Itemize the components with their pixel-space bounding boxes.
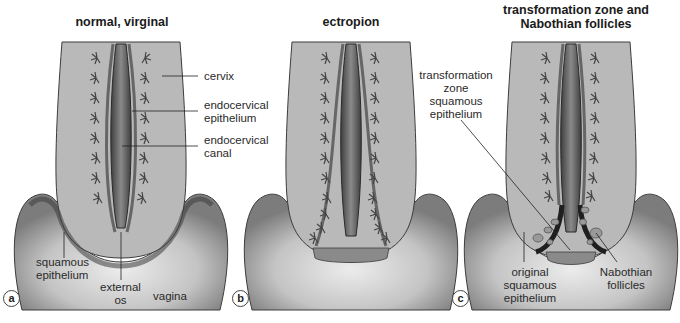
panel-a-title: normal, virginal bbox=[72, 15, 172, 29]
panel-letter-b: b bbox=[232, 290, 249, 307]
panel-letter-c: c bbox=[452, 290, 469, 307]
label-vagina: vagina bbox=[153, 290, 187, 303]
label-external-os: external os bbox=[100, 281, 141, 307]
label-squamous-epithelium: squamous epithelium bbox=[36, 256, 89, 282]
panel-b-title: ectropion bbox=[301, 15, 401, 29]
label-transformation-zone: transformation zone squamous epithelium bbox=[413, 69, 499, 121]
label-endocervical-canal: endocervical canal bbox=[204, 134, 269, 160]
label-cervix: cervix bbox=[204, 70, 234, 83]
panel-letter-a: a bbox=[3, 290, 20, 307]
diagram-canvas bbox=[0, 0, 680, 323]
panel-c-title: transformation zone and Nabothian follic… bbox=[501, 3, 651, 31]
label-endocervical-epithelium: endocervical epithelium bbox=[204, 99, 269, 125]
label-nabothian-follicles: Nabothian follicles bbox=[598, 266, 654, 292]
label-original-squamous-epithelium: original squamous epithelium bbox=[502, 266, 558, 305]
